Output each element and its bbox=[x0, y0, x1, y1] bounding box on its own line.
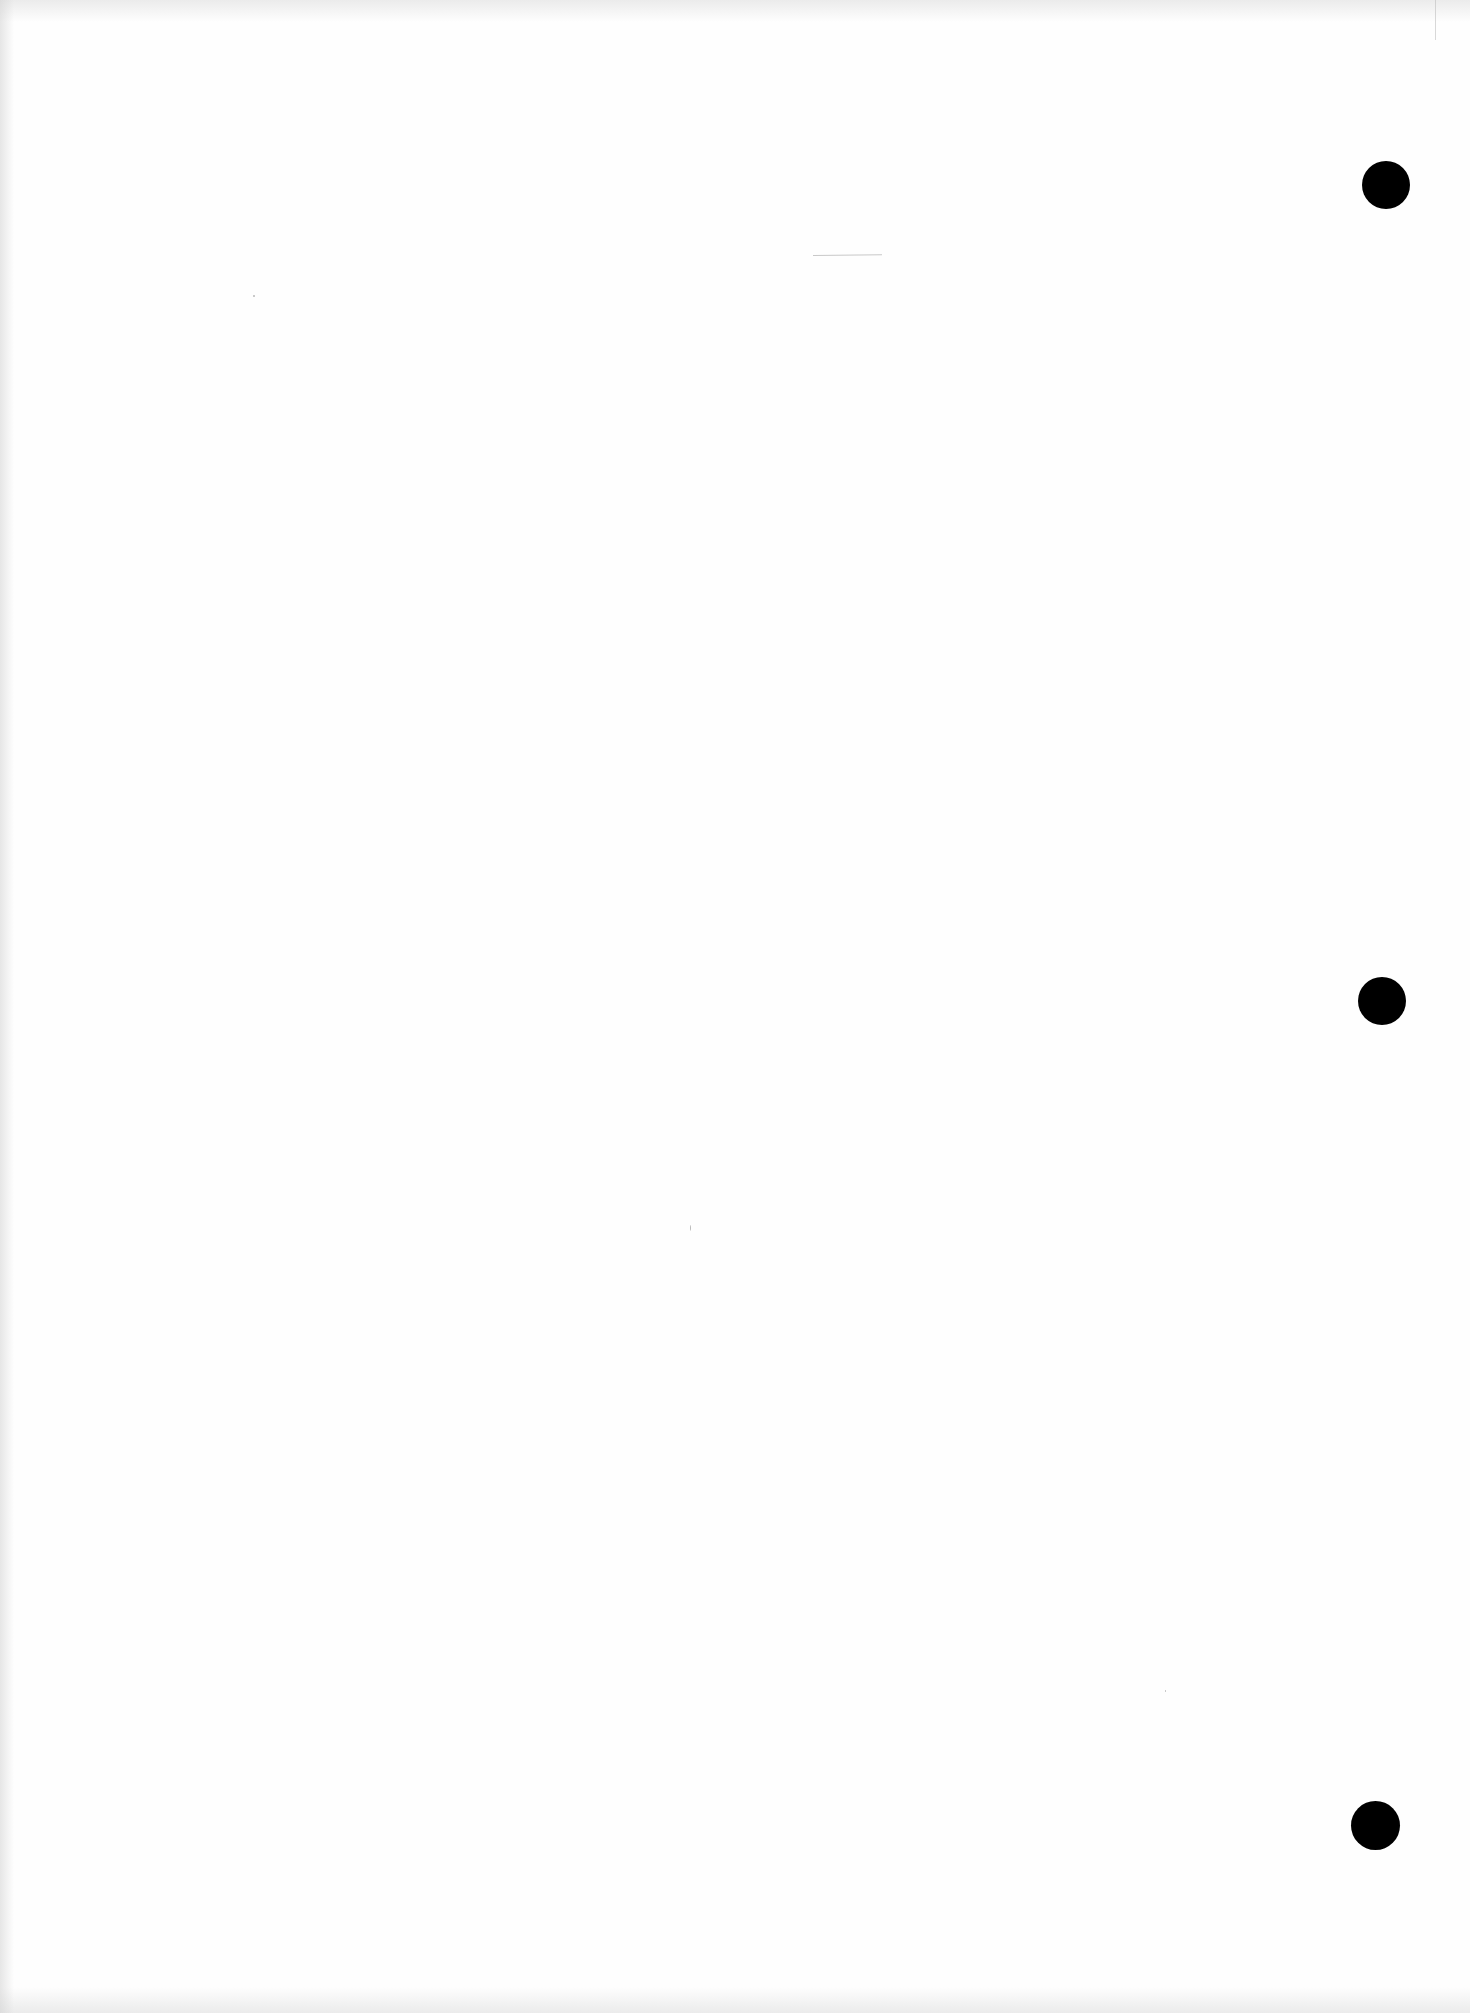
scan-edge-top-shadow bbox=[0, 0, 1470, 22]
dust-speck bbox=[690, 1225, 691, 1231]
scanned-blank-page bbox=[0, 0, 1470, 2013]
scan-edge-left-shadow bbox=[0, 0, 14, 2013]
punch-hole-top bbox=[1362, 161, 1410, 209]
dust-speck bbox=[1165, 1690, 1166, 1692]
scan-edge-right-line bbox=[1435, 0, 1436, 40]
faint-pencil-line bbox=[813, 254, 882, 256]
punch-hole-bottom bbox=[1351, 1801, 1400, 1850]
scan-edge-bottom-shadow bbox=[0, 1987, 1470, 2013]
punch-hole-middle bbox=[1358, 977, 1406, 1025]
dust-speck bbox=[253, 295, 255, 297]
